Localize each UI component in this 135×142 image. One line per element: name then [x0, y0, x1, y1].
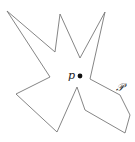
point-p: [78, 74, 83, 79]
star-polygon-diagram: p 𝒫: [0, 0, 135, 142]
polygon-label: 𝒫: [116, 81, 127, 94]
point-label: p: [68, 69, 75, 82]
